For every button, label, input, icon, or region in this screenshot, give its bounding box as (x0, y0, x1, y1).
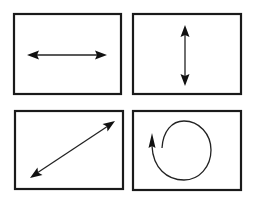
panel-frame (133, 14, 241, 94)
diagonal-double-arrow-icon (30, 121, 115, 178)
circular-arrow-icon (149, 121, 212, 180)
motion-direction-diagram (0, 0, 257, 203)
panel-vertical (133, 14, 241, 94)
panel-rotation (133, 111, 241, 190)
panel-diagonal (15, 111, 123, 189)
panel-horizontal (14, 14, 121, 94)
horizontal-double-arrow-icon (27, 51, 107, 60)
vertical-double-arrow-icon (181, 25, 190, 86)
panel-frame (133, 111, 241, 190)
